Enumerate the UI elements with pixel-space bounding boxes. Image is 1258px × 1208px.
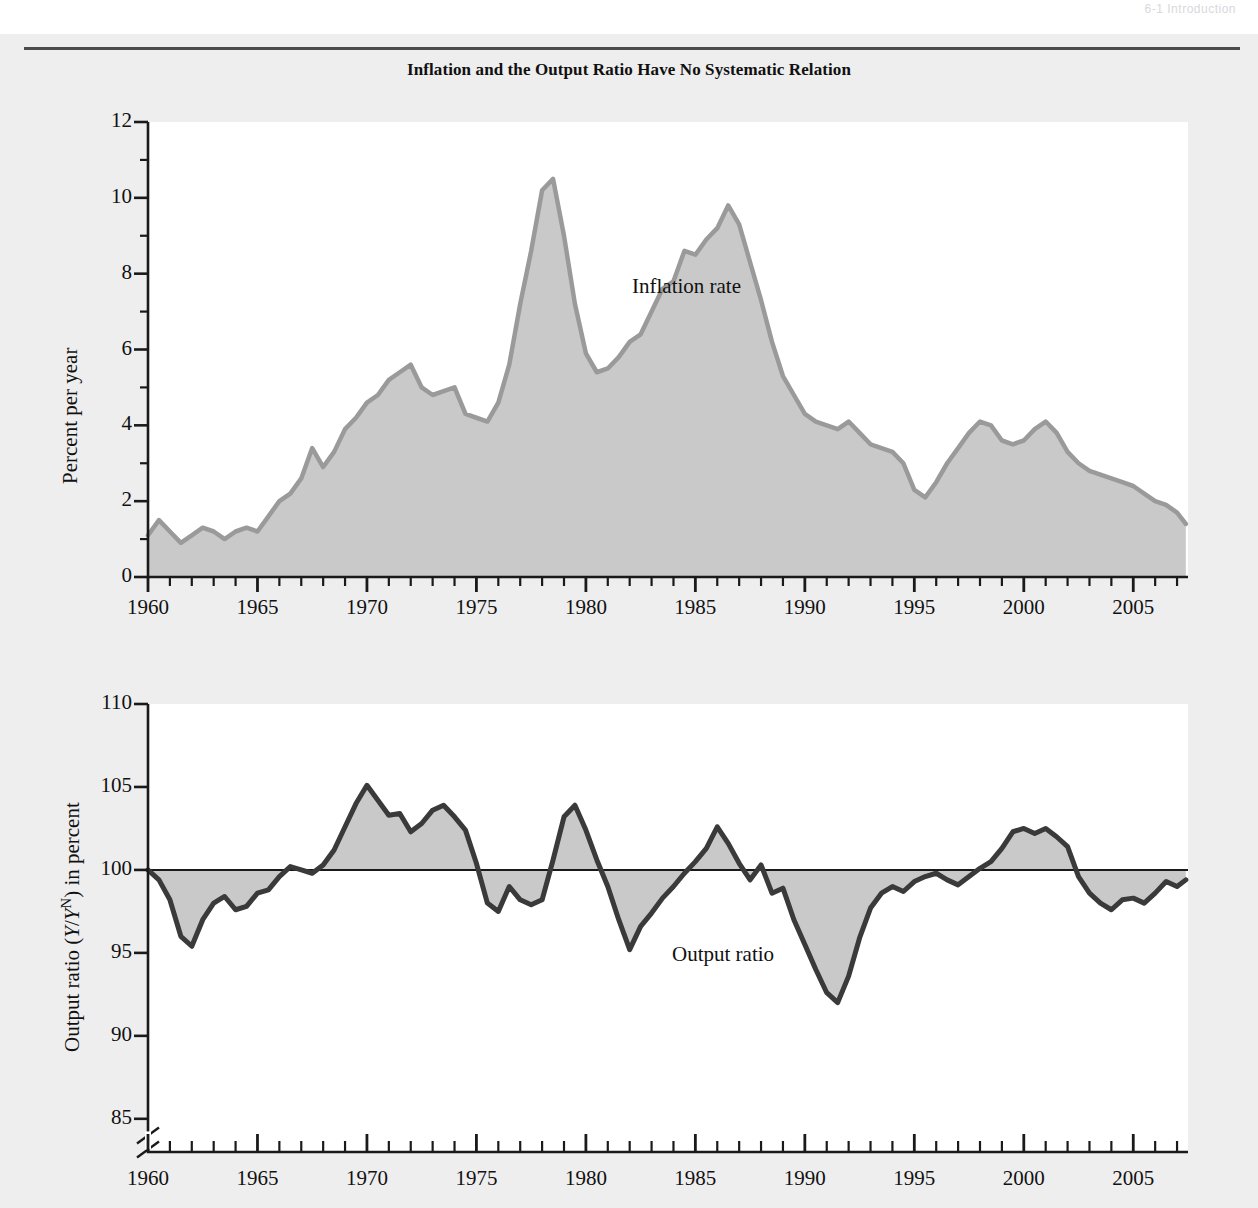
inflation-x-tick-label: 2000 [974,595,1074,620]
inflation-y-axis-label: Percent per year [58,348,83,484]
output-ratio-x-tick-label: 1965 [207,1166,307,1191]
inflation-y-tick-label: 2 [28,487,132,512]
inflation-y-tick-label: 8 [28,260,132,285]
output-ylabel-text: Output ratio (Y/YN) in percent [60,802,84,1052]
output-ratio-x-tick-label: 1995 [864,1166,964,1191]
inflation-x-tick-label: 2005 [1083,595,1183,620]
output-ratio-axis-lines [148,704,1188,1152]
output-ratio-x-tick-label: 2005 [1083,1166,1183,1191]
inflation-x-tick-label: 1980 [536,595,636,620]
output-ratio-x-tick-label: 1970 [317,1166,417,1191]
output-ratio-x-tick-label: 1975 [426,1166,526,1191]
output-ratio-line [148,785,1186,1002]
figure-title: Inflation and the Output Ratio Have No S… [0,60,1258,80]
output-ratio-x-tick-label: 2000 [974,1166,1074,1191]
inflation-series-label: Inflation rate [632,274,741,299]
figure-page: 6-1 Introduction Inflation and the Outpu… [0,0,1258,1208]
inflation-x-tick-label: 1995 [864,595,964,620]
inflation-x-tick-label: 1985 [645,595,745,620]
output-ratio-y-tick-label: 105 [28,773,132,798]
inflation-y-tick-label: 0 [28,563,132,588]
output-ratio-y-axis-label: Output ratio (Y/YN) in percent [58,802,85,1052]
running-head-text: 6-1 Introduction [1145,2,1236,16]
figure-top-rule [24,47,1240,50]
output-ratio-y-tick-label: 110 [28,690,132,715]
inflation-area [148,179,1186,577]
inflation-x-tick-label: 1960 [98,595,198,620]
running-head: 6-1 Introduction [0,0,1258,30]
figure-container: Inflation and the Output Ratio Have No S… [0,34,1258,1208]
inflation-x-tick-label: 1965 [207,595,307,620]
inflation-chart-panel [148,122,1188,577]
output-ratio-x-tick-label: 1985 [645,1166,745,1191]
output-ratio-series-label: Output ratio [672,942,774,967]
inflation-x-tick-label: 1970 [317,595,417,620]
inflation-x-tick-label: 1990 [755,595,855,620]
output-ratio-y-tick-label: 85 [28,1105,132,1130]
inflation-plot-svg [148,122,1188,577]
output-ratio-x-tick-label: 1980 [536,1166,636,1191]
inflation-x-tick-label: 1975 [426,595,526,620]
inflation-y-tick-label: 12 [28,108,132,133]
output-ratio-plot-svg [148,704,1188,1152]
inflation-y-tick-label: 10 [28,184,132,209]
output-ratio-chart-panel [148,704,1188,1152]
output-ratio-x-tick-label: 1960 [98,1166,198,1191]
output-ratio-x-tick-label: 1990 [755,1166,855,1191]
